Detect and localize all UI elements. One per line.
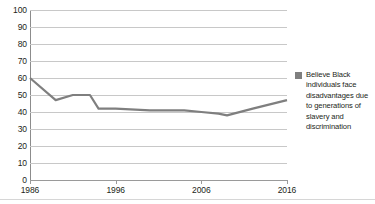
- legend-color-swatch: [295, 72, 302, 79]
- y-tick-label-10: 10: [1, 159, 27, 168]
- y-tick-label-90: 90: [1, 23, 27, 32]
- y-tick-label-80: 80: [1, 40, 27, 49]
- x-tick-mark-1996: [116, 180, 117, 184]
- x-tick-mark-2006: [201, 180, 202, 184]
- y-tick-label-20: 20: [1, 142, 27, 151]
- legend-item-label: Believe Black individuals face disadvant…: [306, 70, 375, 132]
- y-tick-label-0: 0: [1, 176, 27, 185]
- y-axis-tick-labels: 1009080706050403020100: [0, 0, 27, 204]
- y-tick-label-100: 100: [1, 6, 27, 15]
- x-tick-label-2006: 2006: [192, 186, 211, 195]
- y-tick-label-70: 70: [1, 57, 27, 66]
- x-tick-mark-2016: [287, 180, 288, 184]
- footer-divider: [0, 199, 375, 200]
- y-tick-label-60: 60: [1, 74, 27, 83]
- y-tick-label-40: 40: [1, 108, 27, 117]
- y-tick-label-50: 50: [1, 91, 27, 100]
- plot-area: [30, 10, 287, 180]
- chart-legend: Believe Black individuals face disadvant…: [295, 70, 375, 132]
- line-chart-figure: 1009080706050403020100 1986199620062016 …: [0, 0, 375, 204]
- y-tick-label-30: 30: [1, 125, 27, 134]
- x-tick-label-2016: 2016: [278, 186, 297, 195]
- x-tick-label-1986: 1986: [21, 186, 40, 195]
- x-tick-mark-1986: [30, 180, 31, 184]
- gridline-0: [30, 180, 287, 181]
- series-line: [30, 78, 287, 115]
- series-line-group: [30, 10, 287, 180]
- x-tick-label-1996: 1996: [106, 186, 125, 195]
